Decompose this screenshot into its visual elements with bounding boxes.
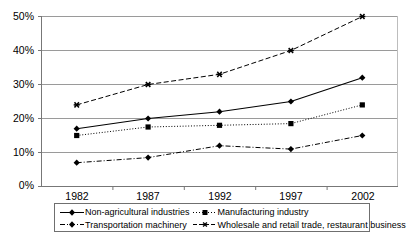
x-tick-label: 1992 (208, 190, 232, 200)
x-axis-tick-labels: 1982 1987 1992 1997 2002 (65, 190, 375, 200)
legend-key-dashdot-diamond-icon (59, 219, 85, 230)
data-point-marker (359, 132, 365, 138)
data-point-marker (146, 124, 151, 129)
legend-label: Manufacturing industry (218, 207, 309, 217)
x-tick-label: 1987 (136, 190, 160, 200)
legend-label: Non-agricultural industries (85, 207, 190, 217)
data-point-marker (359, 14, 365, 19)
chart-plot-area: 50% 40% 30% 20% 10% 0% (0, 0, 408, 200)
y-tick-label: 30% (13, 78, 34, 90)
y-axis-tick-labels: 50% 40% 30% 20% 10% 0% (13, 10, 34, 191)
data-point-marker (359, 75, 365, 81)
y-tick-label: 10% (13, 146, 34, 158)
chart-legend: Non-agricultural industries Transportati… (54, 203, 370, 232)
y-axis-ticks (38, 17, 41, 187)
legend-label: Wholesale and retail trade, restaurant b… (218, 220, 406, 230)
data-point-marker (145, 115, 151, 121)
legend-column-right: Manufacturing industry Wholesale and ret… (190, 206, 372, 231)
data-point-marker (360, 102, 365, 107)
data-point-marker (145, 155, 151, 161)
data-point-marker (288, 98, 294, 104)
x-tick-label: 1997 (279, 190, 303, 200)
data-series-layer (74, 14, 366, 166)
x-tick-label: 2002 (351, 190, 375, 200)
series-manufacturing-industry (74, 102, 365, 138)
data-point-marker (145, 82, 151, 87)
legend-key-dotted-square-icon (192, 207, 218, 218)
legend-item-transportation-machinery[interactable]: Transportation machinery (59, 219, 190, 231)
legend-column-left: Non-agricultural industries Transportati… (55, 206, 190, 231)
data-point-marker (74, 160, 80, 166)
x-tick-label: 1982 (65, 190, 89, 200)
data-point-marker (216, 143, 222, 149)
series-wholesale-and-retail-trade-restaurant-business (74, 14, 366, 108)
data-point-marker (217, 72, 223, 77)
data-point-marker (74, 126, 80, 132)
series-line (77, 78, 363, 129)
y-tick-label: 50% (13, 10, 34, 22)
series-transportation-machinery (74, 132, 366, 165)
data-point-marker (74, 102, 80, 107)
y-tick-label: 40% (13, 44, 34, 56)
legend-item-manufacturing-industry[interactable]: Manufacturing industry (192, 207, 372, 219)
legend-label: Transportation machinery (85, 220, 187, 230)
data-point-marker (288, 146, 294, 152)
legend-key-solid-diamond-icon (59, 207, 85, 218)
legend-item-non-agricultural-industries[interactable]: Non-agricultural industries (59, 207, 190, 219)
data-point-marker (288, 48, 294, 53)
gridlines (41, 17, 398, 153)
y-tick-label: 20% (13, 112, 34, 124)
y-tick-label: 0% (19, 179, 34, 191)
legend-key-dashed-asterisk-icon (192, 219, 218, 230)
data-point-marker (217, 123, 222, 128)
data-point-marker (74, 133, 79, 138)
legend-item-wholesale-retail-trade[interactable]: Wholesale and retail trade, restaurant b… (192, 219, 372, 231)
line-chart-svg: 50% 40% 30% 20% 10% 0% (0, 0, 408, 200)
data-point-marker (288, 121, 293, 126)
data-point-marker (216, 109, 222, 115)
chart-screenshot: 50% 40% 30% 20% 10% 0% (0, 0, 408, 237)
series-line (77, 136, 363, 163)
